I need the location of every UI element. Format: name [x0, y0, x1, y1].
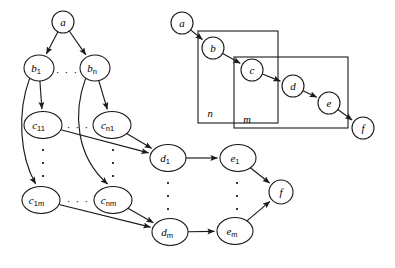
left-node-cn1[interactable]: cn1: [93, 112, 131, 139]
right-node-ra[interactable]: a: [171, 12, 193, 34]
left-node-f[interactable]: f: [269, 180, 293, 204]
vdots-cn-dot-3: [112, 175, 114, 177]
right-node-rd-label: d: [290, 80, 296, 92]
edge-rb-to-rc: [223, 53, 241, 63]
hdots-b: · · ·: [56, 66, 79, 78]
ellipsis-dots-layer: · · ·· · ·· · ·: [42, 66, 238, 210]
edge-a-to-b1: [46, 32, 58, 54]
left-node-cnm[interactable]: cnm: [94, 187, 132, 214]
left-node-c1m[interactable]: c1m: [22, 187, 60, 214]
left-node-e1[interactable]: e1: [220, 145, 256, 172]
vdots-e-dot-3: [236, 208, 238, 210]
vdots-d-dot-1: [167, 182, 169, 184]
edge-b1-to-c11: [40, 81, 42, 109]
edge-cnm-to-dm: [128, 208, 153, 222]
right-node-rc[interactable]: c: [241, 59, 263, 81]
vdots-c1-dot-3: [42, 175, 44, 177]
left-node-em[interactable]: em: [217, 218, 253, 245]
right-node-re-label: e: [327, 97, 332, 109]
vdots-d-dot-3: [167, 208, 169, 210]
right-node-rb[interactable]: b: [202, 37, 224, 59]
left-node-a[interactable]: a: [52, 11, 74, 33]
diagram-canvas: nm · · ·· · ·· · · ab1bnc11cn1c1mcnmd1dm…: [0, 0, 395, 268]
left-node-b1[interactable]: b1: [24, 55, 54, 81]
vdots-e-dot-2: [236, 195, 238, 197]
right-node-rb-label: b: [210, 42, 216, 54]
vdots-e-dot-1: [236, 182, 238, 184]
right-node-re[interactable]: e: [318, 92, 340, 114]
left-node-d1[interactable]: d1: [150, 145, 186, 172]
hdots-cm: · · ·: [67, 195, 90, 207]
vdots-c1-dot-2: [42, 162, 44, 164]
edge-cn1-to-d1: [127, 134, 152, 149]
right-node-rc-label: c: [250, 64, 255, 76]
vdots-cn-dot-1: [112, 149, 114, 151]
right-node-ra-label: a: [179, 17, 185, 29]
vdots-d-dot-2: [167, 195, 169, 197]
figure-root: nm · · ·· · ·· · · ab1bnc11cn1c1mcnmd1dm…: [0, 0, 395, 268]
plate-n-label: n: [207, 108, 212, 119]
edge-em-to-f: [247, 201, 270, 221]
edge-rd-to-re: [303, 91, 317, 98]
left-node-c11[interactable]: c11: [24, 112, 62, 139]
right-node-rf[interactable]: f: [352, 117, 374, 139]
left-node-dm[interactable]: dm: [152, 219, 188, 246]
plate-m-label: m: [243, 114, 251, 125]
edge-bn-to-cn1: [99, 81, 108, 110]
vdots-cn-dot-2: [112, 162, 114, 164]
left-node-a-label: a: [60, 16, 66, 28]
edge-re-to-rf: [338, 110, 352, 120]
vdots-c1-dot-1: [42, 149, 44, 151]
edge-e1-to-f: [250, 168, 269, 183]
edge-a-to-bn: [69, 31, 86, 55]
left-node-bn[interactable]: bn: [80, 55, 110, 81]
hdots-c1: · · ·: [67, 121, 90, 133]
right-node-rd[interactable]: d: [282, 75, 304, 97]
